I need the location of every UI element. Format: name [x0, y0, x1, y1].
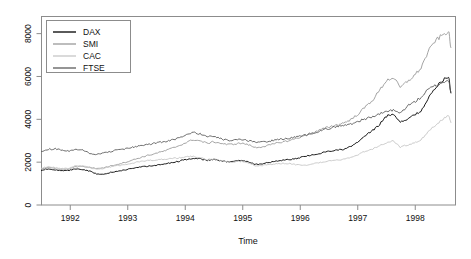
x-tick-label: 1996 — [291, 213, 310, 223]
y-tick-label: 8000 — [23, 24, 33, 43]
x-tick-label: 1992 — [61, 213, 80, 223]
legend-label-dax: DAX — [83, 27, 101, 37]
x-tick-label: 1997 — [348, 213, 367, 223]
legend-label-ftse: FTSE — [83, 63, 105, 73]
y-tick-label: 4000 — [23, 110, 33, 129]
y-tick-label: 6000 — [23, 67, 33, 86]
eustockmarkets-line-chart: 02000400060008000 1992199319941995199619… — [0, 0, 471, 259]
y-tick-label: 2000 — [23, 152, 33, 171]
x-tick-label: 1994 — [176, 213, 195, 223]
chart-legend: DAXSMICACFTSE — [47, 21, 131, 74]
x-tick-label: 1995 — [233, 213, 252, 223]
x-axis-title: Time — [238, 236, 258, 246]
y-tick-label: 0 — [23, 202, 33, 207]
x-tick-label: 1998 — [406, 213, 425, 223]
chart-root: 02000400060008000 1992199319941995199619… — [0, 0, 471, 259]
x-tick-label: 1993 — [118, 213, 137, 223]
legend-label-cac: CAC — [83, 51, 101, 61]
legend-label-smi: SMI — [83, 39, 98, 49]
